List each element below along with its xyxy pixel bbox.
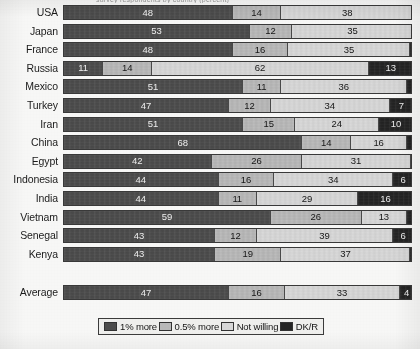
row-label-india: India — [0, 193, 58, 204]
segment-value: 14 — [321, 138, 331, 148]
stacked-bar-usa: 481438 — [63, 5, 412, 20]
bar-segment-russia-0-5-more: 14 — [102, 62, 151, 75]
bar-segment-france-0-5-more: 16 — [232, 43, 288, 56]
bar-segment-france-dk-r: 1 — [409, 43, 412, 56]
row-label-average: Average — [0, 287, 58, 298]
chart-row-russia: Russia11146213 — [0, 61, 420, 76]
segment-value: 47 — [141, 288, 151, 298]
bar-segment-iran-not-willing: 24 — [294, 118, 378, 131]
stacked-bar-vietnam: 5926132 — [63, 210, 412, 225]
segment-value: 13 — [386, 63, 396, 73]
chart-row-japan: Japan531235 — [0, 24, 420, 39]
row-label-kenya: Kenya — [0, 249, 58, 260]
bar-segment-russia-dk-r: 13 — [368, 62, 412, 75]
segment-value: 11 — [257, 82, 267, 92]
bar-segment-mexico-not-willing: 36 — [280, 80, 406, 93]
segment-value: 59 — [162, 212, 172, 222]
bar-segment-india-1-more: 44 — [64, 192, 218, 205]
stacked-bar-average: 4716334 — [63, 285, 412, 300]
legend-item-0-5-more[interactable]: 0.5% more — [159, 322, 220, 332]
bar-segment-china-not-willing: 16 — [350, 136, 406, 149]
chart-row-turkey: Turkey4712347 — [0, 98, 420, 113]
bar-segment-india-not-willing: 29 — [256, 192, 357, 205]
chart-row-egypt: Egypt4226311 — [0, 154, 420, 169]
segment-value: 31 — [351, 156, 361, 166]
chart-row-iran: Iran51152410 — [0, 117, 420, 132]
row-label-china: China — [0, 137, 58, 148]
chart-row-usa: USA481438 — [0, 5, 420, 20]
legend-label-dk-r: DK/R — [296, 322, 318, 332]
bar-segment-mexico-1-more: 51 — [64, 80, 242, 93]
bar-segment-mexico-0-5-more: 11 — [242, 80, 280, 93]
stacked-bar-turkey: 4712347 — [63, 98, 412, 113]
legend-swatch-1-more — [104, 322, 117, 331]
chart-row-vietnam: Vietnam5926132 — [0, 210, 420, 225]
segment-value: 44 — [136, 194, 146, 204]
segment-value: 62 — [255, 63, 265, 73]
bar-segment-usa-0-5-more: 14 — [232, 6, 281, 19]
bar-segment-average-1-more: 47 — [64, 286, 228, 299]
segment-value: 11 — [232, 194, 242, 204]
bar-segment-senegal-not-willing: 39 — [256, 229, 392, 242]
stacked-bar-china: 6814162 — [63, 135, 412, 150]
segment-value: 14 — [122, 63, 132, 73]
legend-item-dk-r[interactable]: DK/R — [280, 322, 318, 332]
legend-item-not-willing[interactable]: Not willing — [221, 322, 279, 332]
stacked-bar-france: 4816351 — [63, 42, 412, 57]
segment-value: 44 — [136, 175, 146, 185]
bar-segment-iran-0-5-more: 15 — [242, 118, 294, 131]
stacked-bar-senegal: 4312396 — [63, 228, 412, 243]
segment-value: 68 — [177, 138, 187, 148]
segment-value: 34 — [325, 101, 335, 111]
bar-segment-senegal-1-more: 43 — [64, 229, 214, 242]
bar-segment-china-dk-r: 2 — [406, 136, 412, 149]
segment-value: 7 — [399, 101, 404, 111]
legend-swatch-not-willing — [221, 322, 234, 331]
segment-value: 51 — [148, 82, 158, 92]
segment-value: 16 — [251, 288, 261, 298]
chart-row-mexico: Mexico5111362 — [0, 79, 420, 94]
bar-segment-egypt-not-willing: 31 — [301, 155, 409, 168]
bar-segment-average-0-5-more: 16 — [228, 286, 284, 299]
bar-segment-turkey-1-more: 47 — [64, 99, 228, 112]
legend-swatch-0-5-more — [159, 322, 172, 331]
segment-value: 38 — [342, 8, 352, 18]
segment-value: 6 — [400, 231, 405, 241]
bar-segment-india-0-5-more: 11 — [218, 192, 256, 205]
stacked-bar-mexico: 5111362 — [63, 79, 412, 94]
row-label-mexico: Mexico — [0, 81, 58, 92]
bar-segment-indonesia-1-more: 44 — [64, 173, 218, 186]
chart-legend: 1% more0.5% moreNot willingDK/R — [98, 318, 324, 335]
bar-segment-japan-not-willing: 35 — [291, 25, 412, 38]
bar-segment-china-1-more: 68 — [64, 136, 301, 149]
segment-value: 4 — [404, 288, 409, 298]
bar-segment-vietnam-0-5-more: 26 — [270, 211, 361, 224]
legend-label-0-5-more: 0.5% more — [175, 322, 220, 332]
bar-segment-kenya-1-more: 43 — [64, 248, 214, 261]
legend-item-1-more[interactable]: 1% more — [104, 322, 157, 332]
bar-segment-turkey-dk-r: 7 — [389, 99, 412, 112]
bar-segment-iran-dk-r: 10 — [378, 118, 412, 131]
row-label-egypt: Egypt — [0, 156, 58, 167]
stacked-bar-japan: 531235 — [63, 24, 412, 39]
bar-segment-senegal-dk-r: 6 — [392, 229, 412, 242]
bar-segment-indonesia-0-5-more: 16 — [218, 173, 274, 186]
chart-row-kenya: Kenya4319371 — [0, 247, 420, 262]
segment-value: 43 — [134, 249, 144, 259]
chart-row-average: Average4716334 — [0, 285, 420, 300]
bar-segment-russia-not-willing: 62 — [151, 62, 367, 75]
row-label-indonesia: Indonesia — [0, 174, 58, 185]
bar-segment-russia-1-more: 11 — [64, 62, 102, 75]
row-label-turkey: Turkey — [0, 100, 58, 111]
bar-segment-kenya-0-5-more: 19 — [214, 248, 280, 261]
segment-value: 53 — [151, 26, 161, 36]
bar-segment-egypt-0-5-more: 26 — [211, 155, 302, 168]
bar-segment-france-not-willing: 35 — [287, 43, 409, 56]
bar-segment-kenya-not-willing: 37 — [280, 248, 409, 261]
segment-value: 48 — [143, 45, 153, 55]
bar-segment-mexico-dk-r: 2 — [406, 80, 412, 93]
segment-value: 36 — [338, 82, 348, 92]
stacked-bar-chart: survey respondents by country (percent) … — [0, 0, 420, 349]
stacked-bar-kenya: 4319371 — [63, 247, 412, 262]
chart-row-senegal: Senegal4312396 — [0, 228, 420, 243]
